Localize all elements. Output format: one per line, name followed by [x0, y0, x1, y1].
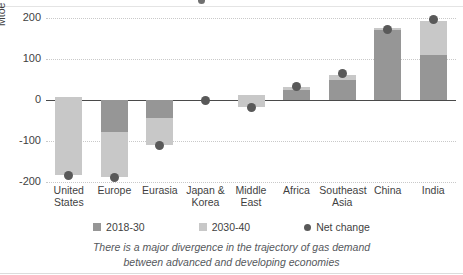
- y-tick-label: -200: [0, 176, 41, 187]
- bar-group[interactable]: [55, 18, 82, 182]
- bar-segment-2018-30: [283, 90, 310, 100]
- x-axis-label: Africa: [274, 184, 320, 196]
- net-change-dot: [155, 141, 164, 150]
- legend-item-2018-30[interactable]: 2018-30: [93, 221, 145, 233]
- net-change-dot: [110, 173, 119, 182]
- bar-group[interactable]: [283, 18, 310, 182]
- x-axis-label: Japan &Korea: [183, 184, 229, 208]
- y-tick-label: 200: [0, 12, 41, 23]
- bar-segment-2030-40: [420, 21, 447, 55]
- x-axis-label-line: Japan &: [183, 184, 229, 196]
- bar-group[interactable]: [146, 18, 173, 182]
- chart-caption: There is a major divergence in the traje…: [0, 240, 463, 270]
- x-axis-label: Europe: [92, 184, 138, 196]
- caption-line-1: There is a major divergence in the traje…: [0, 240, 463, 255]
- header-divider: [0, 6, 463, 7]
- bar-group[interactable]: [420, 18, 447, 182]
- x-axis-labels: UnitedStatesEuropeEurasiaJapan &KoreaMid…: [46, 184, 456, 210]
- square-light-icon: [199, 223, 207, 231]
- legend-item-net-change[interactable]: Net change: [304, 221, 370, 233]
- bar-segment-2018-30: [420, 55, 447, 100]
- cropped-dot-icon: [198, 0, 205, 4]
- bar-segment-2018-30: [374, 28, 401, 100]
- chart-container: Mtoe 2001000-100-200 UnitedStatesEuropeE…: [0, 0, 463, 275]
- x-axis-label-line: Africa: [274, 184, 320, 196]
- gridline--200: [46, 182, 456, 183]
- chart-legend: 2018-30 2030-40 Net change: [0, 219, 463, 235]
- bar-group[interactable]: [101, 18, 128, 182]
- x-axis-label-line: East: [228, 196, 274, 208]
- x-axis-label-line: States: [46, 196, 92, 208]
- net-change-dot: [429, 15, 438, 24]
- legend-label-net-change: Net change: [316, 221, 370, 233]
- x-axis-label-line: India: [410, 184, 456, 196]
- x-axis-label-line: Eurasia: [137, 184, 183, 196]
- net-change-dot: [338, 69, 347, 78]
- net-change-dot: [247, 103, 256, 112]
- square-dark-icon: [93, 223, 101, 231]
- bars-layer: [46, 18, 456, 182]
- x-axis-label-line: China: [365, 184, 411, 196]
- dot-icon: [304, 224, 311, 231]
- x-axis-label-line: United: [46, 184, 92, 196]
- legend-label-2018-30: 2018-30: [106, 221, 145, 233]
- bar-segment-2030-40: [101, 132, 128, 177]
- bar-group[interactable]: [374, 18, 401, 182]
- x-axis-label: UnitedStates: [46, 184, 92, 208]
- x-axis-label-line: Middle: [228, 184, 274, 196]
- x-axis-label: MiddleEast: [228, 184, 274, 208]
- x-axis-label: China: [365, 184, 411, 196]
- legend-item-2030-40[interactable]: 2030-40: [199, 221, 251, 233]
- bar-segment-2018-30: [101, 100, 128, 132]
- x-axis-label: SoutheastAsia: [319, 184, 365, 208]
- y-tick-label: -100: [0, 135, 41, 146]
- net-change-dot: [64, 171, 73, 180]
- caption-line-2: between advanced and developing economie…: [0, 255, 463, 270]
- footer-divider: [0, 273, 463, 274]
- bar-group[interactable]: [238, 18, 265, 182]
- x-axis-label-line: Asia: [319, 196, 365, 208]
- bar-group[interactable]: [329, 18, 356, 182]
- bar-segment-2030-40: [55, 97, 82, 176]
- x-axis-label-line: Korea: [183, 196, 229, 208]
- bar-segment-2018-30: [329, 80, 356, 100]
- cropped-header-artifact: [0, 0, 463, 7]
- x-axis-label: India: [410, 184, 456, 196]
- bar-group[interactable]: [192, 18, 219, 182]
- net-change-dot: [201, 96, 210, 105]
- x-axis-label: Eurasia: [137, 184, 183, 196]
- legend-label-2030-40: 2030-40: [212, 221, 251, 233]
- y-tick-label: 0: [0, 94, 41, 105]
- x-axis-label-line: Southeast: [319, 184, 365, 196]
- x-axis-label-line: Europe: [92, 184, 138, 196]
- bar-segment-2018-30: [146, 100, 173, 118]
- y-tick-label: 100: [0, 53, 41, 64]
